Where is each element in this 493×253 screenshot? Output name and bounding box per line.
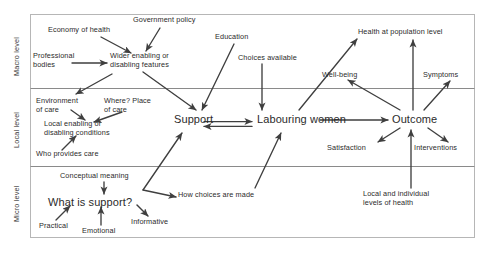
node-environment_of_care: Environment of care xyxy=(36,97,98,114)
node-how_choices_made: How choices are made xyxy=(178,191,278,200)
edge-education-to-support xyxy=(202,44,234,110)
node-professional_bodies: Professional bodies xyxy=(33,52,95,69)
edge-who-to-local xyxy=(62,136,76,150)
node-government_policy: Government policy xyxy=(133,16,221,25)
edge-outcome-to-symptoms xyxy=(424,81,450,110)
node-economy_of_health: Economy of health xyxy=(48,26,130,35)
node-conceptual_meaning: Conceptual meaning xyxy=(60,172,150,181)
node-symptoms: Symptoms xyxy=(423,71,471,80)
node-wider_features: Wider enabling or disabling features xyxy=(110,52,196,69)
edge-outcome-to-wellbeing xyxy=(348,80,400,110)
node-education: Education xyxy=(215,33,263,42)
node-wellbeing: Well-being xyxy=(322,71,372,80)
edge-wider-to-environment xyxy=(76,74,112,94)
edge-outcome-to-satisfaction xyxy=(378,128,400,142)
node-local_individual: Local and individual levels of health xyxy=(363,190,453,207)
edge-policy-to-wider xyxy=(146,28,160,51)
node-local_conditions: Local enabling or disabling conditions xyxy=(44,120,136,137)
node-where_place_of_care: Where? Place of care xyxy=(104,97,168,114)
edge-outcome-to-interventions xyxy=(428,128,448,142)
node-support: Support xyxy=(174,113,224,126)
edge-whatsupport-to-support xyxy=(143,133,182,190)
node-who_provides_care: Who provides care xyxy=(36,150,116,159)
node-what_is_support: What is support? xyxy=(48,196,158,209)
node-informative: Informative xyxy=(131,218,183,227)
band-label-macro: Macro level xyxy=(12,37,21,76)
band-label-local: Local level xyxy=(12,112,21,148)
band-label-micro: Micro level xyxy=(12,185,21,222)
node-labouring_women: Labouring women xyxy=(257,113,355,126)
node-outcome: Outcome xyxy=(392,113,448,126)
diagram-canvas: Macro level Local level Micro level Econ… xyxy=(0,0,493,253)
node-practical: Practical xyxy=(39,222,83,231)
edge-howchoices-to-labouring xyxy=(255,133,281,188)
node-satisfaction: Satisfaction xyxy=(327,144,383,153)
node-health_population: Health at population level xyxy=(358,28,478,37)
node-choices_available: Choices available xyxy=(238,54,314,63)
node-emotional: Emotional xyxy=(82,227,128,236)
node-interventions: Interventions xyxy=(414,144,474,153)
